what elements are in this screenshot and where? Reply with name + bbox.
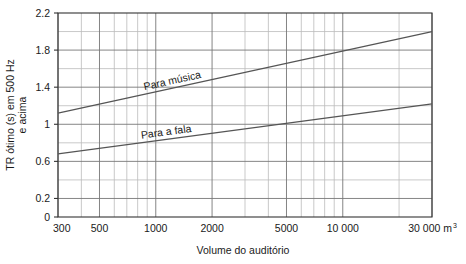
y-axis-title-line2: e acima <box>16 96 28 133</box>
y-axis-title-line1: TR ótimo (s) em 500 Hz <box>4 59 16 170</box>
x-tick-label: 500 <box>91 222 109 234</box>
x-tick-label: 5000 <box>275 222 299 234</box>
x-unit-exponent: 3 <box>453 222 457 229</box>
x-tick-label: 10 000 <box>327 222 359 234</box>
y-tick-label: 1 <box>44 118 50 130</box>
y-tick-label: 0.2 <box>35 192 50 204</box>
x-tick-label: 2000 <box>200 222 224 234</box>
y-tick-label: 2.2 <box>35 7 50 19</box>
y-tick-label: 1.8 <box>35 44 50 56</box>
reverberation-time-chart: Para músicaPara a fala 30050010002000500… <box>0 0 466 264</box>
chart-figure: Para músicaPara a fala 30050010002000500… <box>0 0 466 264</box>
x-tick-label: 300 <box>53 222 71 234</box>
x-tick-label: 30 000 m <box>408 222 452 234</box>
y-tick-label: 0 <box>44 211 50 223</box>
y-tick-label: 1.4 <box>35 81 50 93</box>
x-tick-label: 1000 <box>144 222 168 234</box>
y-tick-label: 0.6 <box>35 155 50 167</box>
x-axis-title: Volume do auditório <box>197 244 290 256</box>
